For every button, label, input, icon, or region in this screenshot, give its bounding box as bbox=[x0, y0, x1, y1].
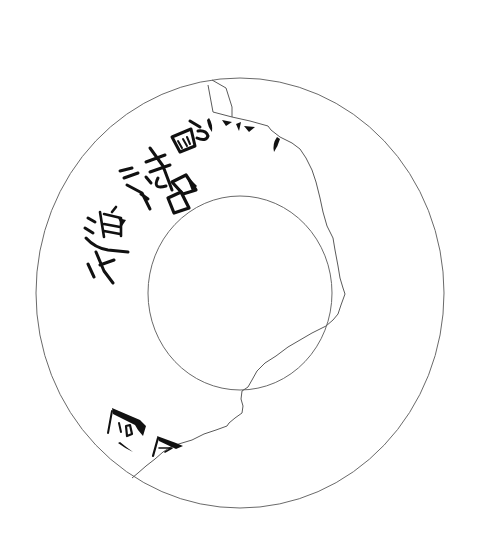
inscription-char-kai bbox=[108, 408, 146, 452]
inscription-lower bbox=[108, 408, 183, 456]
inscription-stroke-mark bbox=[236, 122, 241, 131]
inscription-stroke-mark bbox=[273, 137, 280, 152]
inner-hole bbox=[148, 196, 332, 390]
inscription-char-ju bbox=[120, 168, 151, 209]
inscription-stroke-mark bbox=[207, 118, 212, 132]
inscription-stroke-mark bbox=[244, 126, 255, 132]
broken-disc-drawing bbox=[0, 0, 481, 549]
inscription-char-ga bbox=[172, 129, 195, 152]
inscription-stroke-mark bbox=[222, 120, 232, 126]
inscription-char-mei bbox=[168, 175, 197, 213]
fracture-line bbox=[132, 80, 345, 478]
inscription-char-jo bbox=[88, 252, 114, 283]
outer-rim bbox=[36, 78, 444, 508]
inscription-upper bbox=[85, 118, 280, 283]
inscription-char-kei bbox=[153, 436, 183, 456]
inscription-char-shin bbox=[85, 207, 128, 252]
